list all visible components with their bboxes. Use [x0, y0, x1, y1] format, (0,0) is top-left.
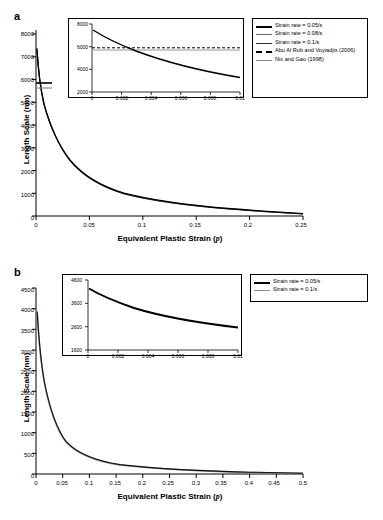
legend-item-nix-gao: Nix and Gao (1998) — [256, 56, 364, 62]
panel-a-inset-ytick-2000: 2000 — [62, 89, 88, 95]
legend-swatch-b-strain-rate-005 — [254, 282, 270, 284]
panel-a-inset-xtick-0006: 0.006 — [169, 95, 193, 101]
legend-swatch-b-strain-rate-01 — [254, 290, 270, 291]
legend-label-strain-rate-008: Strain rate = 0.08/s — [275, 30, 322, 36]
panel-b-inset-ytick-1600: 1600 — [56, 347, 82, 353]
panel-b-inset-xtick-0008: 0.008 — [196, 353, 220, 359]
panel-b-inset-xtick-0006: 0.006 — [166, 353, 190, 359]
panel-a-inset-ytick-4000: 4000 — [62, 66, 88, 72]
panel-a-inset-xtick-0008: 0.008 — [198, 95, 222, 101]
panel-a-inset-xtick-0: 0 — [86, 95, 98, 101]
panel-b-legend: Strain rate = 0.05/s Strain rate = 0.1/s — [250, 274, 368, 302]
panel-b-inset-xtick-0002: 0.002 — [106, 353, 130, 359]
legend-swatch-strain-rate-005 — [256, 26, 272, 28]
legend-label-strain-rate-01: Strain rate = 0.1/s — [275, 39, 319, 45]
legend-item-strain-rate-005: Strain rate = 0.05/s — [256, 22, 364, 28]
panel-a-inset-xtick-0002: 0.002 — [110, 95, 134, 101]
figure-root: a Length Scale (nm) 0 1000 2000 3000 400… — [0, 0, 383, 520]
panel-a-inset-xtick-0004: 0.004 — [139, 95, 163, 101]
legend-item-b-strain-rate-01: Strain rate = 0.1/s — [254, 286, 364, 292]
legend-item-abu-al-rub: Abu Al Rub and Voyiadjis (2006) — [256, 47, 364, 53]
panel-b-inset-ytick-4600: 4600 — [56, 277, 82, 283]
legend-item-strain-rate-008: Strain rate = 0.08/s — [256, 30, 364, 36]
legend-swatch-abu-al-rub — [256, 51, 272, 53]
panel-a-inset-ytick-8000: 8000 — [62, 21, 88, 27]
legend-label-b-strain-rate-005: Strain rate = 0.05/s — [273, 278, 320, 284]
panel-b-inset-xtick-0004: 0.004 — [136, 353, 160, 359]
panel-b-inset-ytick-2600: 2600 — [56, 324, 82, 330]
panel-b: b Length Scale (nm) 0 500 1000 1500 2000… — [0, 258, 383, 518]
panel-a-inset-ytick-6000: 6000 — [62, 44, 88, 50]
panel-a: a Length Scale (nm) 0 1000 2000 3000 400… — [0, 0, 383, 258]
legend-swatch-strain-rate-008 — [256, 34, 272, 35]
legend-swatch-strain-rate-01 — [256, 43, 272, 44]
panel-b-inset-xtick-0: 0 — [82, 353, 94, 359]
panel-b-inset-ytick-3600: 3600 — [56, 300, 82, 306]
panel-b-inset-frame — [62, 274, 242, 356]
legend-label-strain-rate-005: Strain rate = 0.05/s — [275, 22, 322, 28]
legend-label-abu-al-rub: Abu Al Rub and Voyiadjis (2006) — [275, 47, 355, 53]
legend-item-strain-rate-01: Strain rate = 0.1/s — [256, 39, 364, 45]
legend-swatch-nix-gao — [256, 60, 272, 61]
panel-a-legend: Strain rate = 0.05/s Strain rate = 0.08/… — [252, 18, 368, 98]
legend-label-nix-gao: Nix and Gao (1998) — [275, 56, 324, 62]
legend-item-b-strain-rate-005: Strain rate = 0.05/s — [254, 278, 364, 284]
panel-b-inset-xtick-001: 0.01 — [228, 353, 248, 359]
panel-a-inset-xtick-001: 0.01 — [230, 95, 250, 101]
panel-a-inset-frame — [68, 18, 244, 98]
legend-label-b-strain-rate-01: Strain rate = 0.1/s — [273, 286, 317, 292]
